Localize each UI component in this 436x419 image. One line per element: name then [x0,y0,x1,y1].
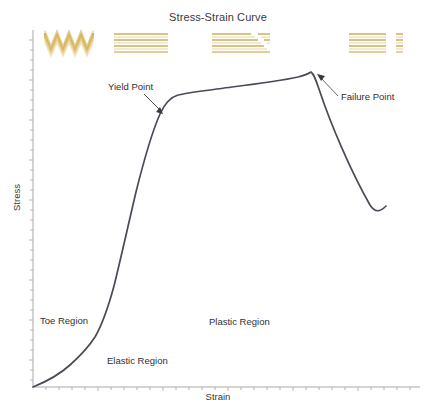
elastic-region-label: Elastic Region [107,355,168,366]
toe-region-label: Toe Region [40,315,88,326]
yield-point-label: Yield Point [108,81,153,92]
y-axis-ticks [29,40,33,380]
plot-area [0,0,436,419]
stress-strain-curve [33,72,386,387]
failure-point-label: Failure Point [341,91,394,102]
y-axis-title: Stress [11,168,22,228]
x-axis-title: Strain [0,391,436,402]
stress-strain-chart-figure: Stress-Strain Curve [0,0,436,419]
plastic-region-label: Plastic Region [209,316,270,327]
yield-point-arrow [144,94,163,114]
